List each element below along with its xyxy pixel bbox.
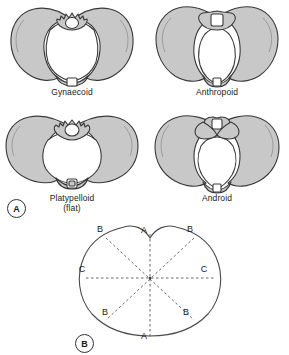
- pelvis-platypelloid: Platypelloid (flat): [0, 106, 144, 214]
- panel-marker-a: A: [7, 199, 26, 218]
- pelvis-android-label: Android: [145, 194, 289, 204]
- diameter-label-b-bottom-right: B: [179, 307, 193, 317]
- diameter-label-c-right: C: [197, 264, 211, 274]
- panel-a-pelvic-shapes: Gynaecoid Ant: [0, 0, 289, 216]
- diameter-label-a-top: A: [137, 225, 151, 235]
- pelvis-figure: Gynaecoid Ant: [0, 0, 289, 355]
- panel-marker-b-text: B: [81, 339, 88, 349]
- pelvis-gynaecoid: Gynaecoid: [0, 0, 144, 108]
- platypelloid-illustration: [0, 106, 144, 198]
- diameter-label-a-bottom: A: [137, 331, 151, 341]
- gynaecoid-name: Gynaecoid: [51, 87, 93, 97]
- android-illustration: [145, 106, 289, 198]
- pelvis-anthropoid: Anthropoid: [145, 0, 289, 108]
- android-name: Android: [202, 193, 232, 203]
- anthropoid-illustration: [145, 0, 289, 92]
- brim-centre-point: [149, 277, 152, 280]
- diameter-label-b-bottom-left: B: [98, 307, 112, 317]
- pelvis-anthropoid-label: Anthropoid: [145, 88, 289, 98]
- pelvic-brim-outline: [60, 222, 240, 342]
- platypelloid-name: Platypelloid: [50, 193, 95, 203]
- anthropoid-name: Anthropoid: [196, 87, 238, 97]
- diameter-label-b-top-right: B: [183, 224, 197, 234]
- pelvis-gynaecoid-label: Gynaecoid: [0, 88, 144, 98]
- diameter-label-c-left: C: [75, 264, 89, 274]
- panel-marker-a-text: A: [13, 204, 20, 214]
- gynaecoid-illustration: [0, 0, 144, 92]
- pelvis-android: Android: [145, 106, 289, 214]
- diameter-label-b-top-left: B: [93, 224, 107, 234]
- panel-marker-b: B: [75, 334, 94, 353]
